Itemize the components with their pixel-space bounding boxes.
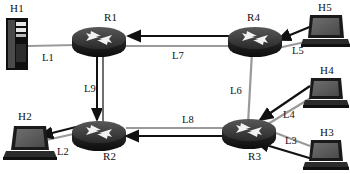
node-label-R4: R4 [247, 11, 260, 23]
node-label-H2: H2 [18, 110, 32, 122]
node-H4-laptop-icon [303, 78, 349, 108]
link-label-L9: L9 [84, 83, 96, 94]
link-label-L4: L4 [283, 109, 295, 120]
node-label-R2: R2 [103, 150, 116, 162]
node-label-H4: H4 [320, 64, 334, 76]
node-label-H5: H5 [318, 1, 332, 13]
link-L8 [126, 128, 228, 136]
node-label-R3: R3 [248, 150, 261, 162]
link-L9 [97, 53, 103, 124]
link-label-L2: L2 [57, 146, 69, 157]
node-label-H3: H3 [320, 126, 334, 138]
network-topology-diagram: H1 H2 H3 H4 H5 R1 R2 R3 R4 L1 L2 L3 L4 L… [0, 0, 350, 174]
link-L1 [28, 45, 76, 46]
node-H1-server-tower-icon [6, 18, 28, 70]
node-R2-router-icon [72, 121, 126, 151]
link-label-L8: L8 [182, 114, 194, 125]
node-H3-laptop-icon [303, 140, 349, 170]
diagram-canvas [0, 0, 350, 174]
link-label-L1: L1 [42, 52, 54, 63]
link-label-L7: L7 [172, 50, 184, 61]
link-label-L5: L5 [292, 45, 304, 56]
node-H5-laptop-icon [301, 15, 350, 47]
link-label-L6: L6 [230, 85, 242, 96]
node-label-H1: H1 [10, 2, 24, 14]
link-L6 [248, 52, 252, 124]
node-H2-laptop-icon [3, 126, 57, 160]
node-R3-router-icon [222, 119, 276, 149]
link-label-L3: L3 [285, 135, 297, 146]
node-R1-router-icon [72, 27, 126, 57]
node-label-R1: R1 [104, 11, 117, 23]
node-R4-router-icon [228, 27, 282, 57]
link-L7 [126, 36, 232, 46]
